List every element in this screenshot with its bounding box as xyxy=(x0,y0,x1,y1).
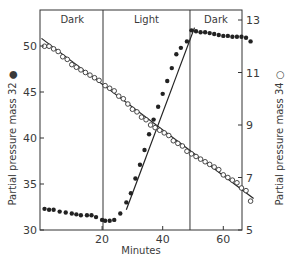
y-right-tick-label: 7 xyxy=(246,172,253,185)
data-point-filled xyxy=(239,35,243,39)
data-point-filled xyxy=(79,213,83,217)
y-right-tick-label: 13 xyxy=(246,14,260,27)
data-point-filled xyxy=(174,52,178,56)
data-point-filled xyxy=(212,32,216,36)
data-point-filled xyxy=(244,36,248,40)
y-axis-left-label: Partial pressure mass 32 ● xyxy=(7,70,18,205)
data-point-filled xyxy=(179,46,183,50)
data-point-open xyxy=(88,73,93,78)
data-point-filled xyxy=(207,31,211,35)
data-point-open xyxy=(51,47,56,52)
data-point-open xyxy=(126,102,131,107)
data-point-open xyxy=(103,83,108,88)
data-point-open xyxy=(216,167,221,172)
data-point-open xyxy=(203,159,208,164)
series-mass-32-points xyxy=(42,28,252,223)
data-point-open xyxy=(198,157,203,162)
data-point-filled xyxy=(89,213,93,217)
data-point-open xyxy=(74,65,79,70)
data-point-filled xyxy=(194,29,198,33)
y-right-tick-label: 5 xyxy=(246,224,253,237)
data-point-filled xyxy=(85,213,89,217)
data-point-filled xyxy=(42,207,46,211)
series-mass-34-points xyxy=(42,44,253,203)
data-point-open xyxy=(235,180,240,185)
y-right-tick-label: 9 xyxy=(246,119,253,132)
data-point-open xyxy=(121,96,126,101)
chart: DarkLightDark 20406030354045505791113 Mi… xyxy=(0,0,292,260)
data-point-open xyxy=(157,128,162,133)
x-tick-label: 20 xyxy=(95,233,109,246)
data-point-filled xyxy=(112,218,116,222)
data-point-open xyxy=(139,115,144,120)
data-point-filled xyxy=(124,200,128,204)
data-point-open xyxy=(226,175,231,180)
data-point-open xyxy=(248,199,253,204)
phase-label-light: Light xyxy=(134,14,159,25)
data-point-filled xyxy=(47,208,51,212)
data-point-filled xyxy=(189,28,193,32)
data-point-filled xyxy=(64,210,68,214)
data-point-open xyxy=(166,133,171,138)
x-axis-label: Minutes xyxy=(121,245,160,256)
data-point-open xyxy=(153,125,158,130)
data-point-filled xyxy=(133,176,137,180)
data-point-filled xyxy=(156,105,160,109)
data-point-open xyxy=(171,138,176,143)
data-point-filled xyxy=(161,92,165,96)
data-point-filled xyxy=(74,212,78,216)
data-point-filled xyxy=(185,39,189,43)
y-axis-right-label: Partial pressure mass 34 ○ xyxy=(274,70,285,205)
data-point-filled xyxy=(226,34,230,38)
data-point-open xyxy=(130,107,135,112)
x-tick-label: 60 xyxy=(216,233,230,246)
data-point-open xyxy=(144,117,149,122)
data-point-open xyxy=(65,57,70,62)
data-point-filled xyxy=(118,211,122,215)
data-point-open xyxy=(135,110,140,115)
data-point-filled xyxy=(203,30,207,34)
data-point-filled xyxy=(230,35,234,39)
data-point-filled xyxy=(138,162,142,166)
fit-line xyxy=(126,28,194,210)
data-point-filled xyxy=(198,30,202,34)
data-point-open xyxy=(221,173,226,178)
data-point-open xyxy=(244,188,249,193)
phase-label-dark: Dark xyxy=(204,14,228,25)
y-left-tick-label: 30 xyxy=(23,224,37,237)
data-point-open xyxy=(176,141,181,146)
data-point-open xyxy=(116,94,121,99)
phase-label-dark: Dark xyxy=(60,14,84,25)
data-point-open xyxy=(162,131,167,136)
data-point-open xyxy=(207,162,212,167)
data-point-filled xyxy=(103,219,107,223)
y-left-tick-label: 35 xyxy=(23,178,37,191)
data-point-filled xyxy=(70,211,74,215)
data-point-open xyxy=(112,89,117,94)
data-point-open xyxy=(97,78,102,83)
y-left-tick-label: 50 xyxy=(23,40,37,53)
data-point-filled xyxy=(51,208,55,212)
data-point-filled xyxy=(217,33,221,37)
data-point-open xyxy=(70,62,75,67)
data-point-open xyxy=(148,123,153,128)
data-point-filled xyxy=(151,117,155,121)
data-point-filled xyxy=(129,191,133,195)
data-point-open xyxy=(180,144,185,149)
data-point-filled xyxy=(235,35,239,39)
data-point-open xyxy=(194,154,199,159)
data-point-filled xyxy=(107,219,111,223)
data-point-filled xyxy=(170,66,174,70)
data-point-open xyxy=(60,54,65,59)
data-point-open xyxy=(83,70,88,75)
data-point-open xyxy=(56,49,61,54)
data-point-filled xyxy=(165,79,169,83)
data-point-open xyxy=(107,86,112,91)
data-point-open xyxy=(189,152,194,157)
data-point-filled xyxy=(57,209,61,213)
data-point-open xyxy=(239,186,244,191)
data-point-open xyxy=(47,44,52,49)
data-point-open xyxy=(79,68,84,73)
data-point-filled xyxy=(147,132,151,136)
y-left-tick-label: 45 xyxy=(23,86,37,99)
